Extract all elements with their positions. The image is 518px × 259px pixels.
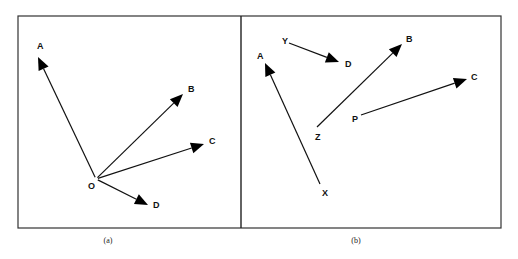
panel-a: OABCD [37,41,216,210]
point-label-a-a: A [37,41,44,51]
point-label-a-b: B [188,84,195,94]
arrowhead-b-c [453,78,467,88]
point-label-a-c: C [209,136,216,146]
figure-frame [18,16,501,228]
arrowhead-a-c [190,143,204,153]
arrowhead-b-d [325,52,339,62]
vector-a-o-a [44,69,96,177]
point-label-b-z: Z [315,132,321,142]
vector-a-o-d [98,180,137,199]
point-label-b-x: X [322,188,328,198]
point-label-b-p: P [352,114,358,124]
vector-diagram-figure: OABCD XAYDZBPC (a) (b) [0,0,518,259]
vector-b-y-d [289,43,327,57]
point-label-b-d: D [345,59,352,69]
point-label-b-y: Y [282,36,288,46]
panel-b: XAYDZBPC [257,34,478,198]
point-label-a-o: O [88,181,95,191]
point-label-a-d: D [153,200,160,210]
panel-b-caption: (b) [351,236,361,245]
panel-a-caption: (a) [104,236,113,245]
vector-b-p-c [361,83,455,115]
point-label-b-b: B [406,34,413,44]
point-label-b-c: C [471,72,478,82]
vector-b-x-a [270,75,320,184]
point-label-b-a: A [257,51,264,61]
